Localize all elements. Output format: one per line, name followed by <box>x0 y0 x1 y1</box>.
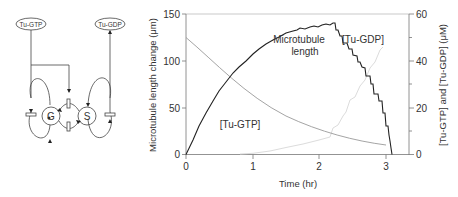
shrinking-label: S <box>84 111 91 122</box>
y-tick-0: 0 <box>174 149 180 160</box>
x-tick-2: 2 <box>316 161 322 172</box>
y2-tick-40: 40 <box>416 56 428 67</box>
diagram-arrowheads <box>29 30 112 143</box>
y-tick-100: 100 <box>163 56 180 67</box>
right-loop <box>88 78 112 138</box>
x-tick-1: 1 <box>250 161 256 172</box>
y-tick-50: 50 <box>169 103 181 114</box>
y2-tick-60: 60 <box>416 9 428 20</box>
series-tu-gtp <box>186 38 386 146</box>
y-tick-150: 150 <box>163 9 180 20</box>
tu-gtp-connector <box>31 30 69 92</box>
reaction-diagram <box>16 18 125 138</box>
x-tick-3: 3 <box>383 161 389 172</box>
x-tick-0: 0 <box>183 161 189 172</box>
tu-gtp-label: Tu-GTP <box>20 21 43 28</box>
valve-left <box>26 113 36 116</box>
chart: 150 100 50 0 0 1 2 3 60 40 20 0 Time (hr… <box>147 9 448 189</box>
valve-bottom <box>67 122 70 131</box>
y-axis-label: Microtubule length change (μm) <box>147 18 158 152</box>
annotation-tu-gtp: [Tu-GTP] <box>220 119 261 130</box>
y2-axis-label: [Tu-GTP] and [Tu-GDP] (μM) <box>437 24 448 146</box>
y2-tick-20: 20 <box>416 103 428 114</box>
series-tu-gdp <box>240 47 383 154</box>
figure: Tu-GTP Tu-GDP G S <box>0 0 458 197</box>
y2-tick-0: 0 <box>416 149 422 160</box>
valve-right <box>105 113 115 116</box>
tu-gdp-label: Tu-GDP <box>98 21 122 28</box>
valve-top <box>67 99 70 108</box>
growing-label: G <box>47 111 55 122</box>
annotation-microtubule: Microtubulelength <box>273 34 325 57</box>
annotation-tu-gdp: [Tu-GDP] <box>342 34 384 45</box>
x-axis-label: Time (hr) <box>279 178 317 189</box>
